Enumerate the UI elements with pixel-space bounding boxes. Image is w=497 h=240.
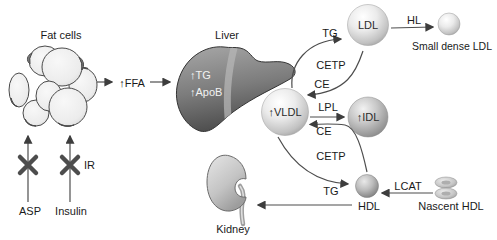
fat-cells-label: Fat cells	[41, 29, 82, 41]
liver-label: Liver	[215, 29, 239, 41]
hl-label: HL	[407, 14, 421, 26]
cetp-upper-label: CETP	[316, 59, 345, 71]
hdl-label: HDL	[358, 200, 380, 212]
liver-tg-label: ↑TG	[190, 69, 211, 81]
nascent-hdl-label: Nascent HDL	[418, 200, 483, 212]
ldl-label: LDL	[358, 19, 378, 31]
kidney-label: Kidney	[216, 223, 250, 235]
tg-lower-label: TG	[323, 185, 338, 197]
hdl-circle	[356, 175, 379, 198]
nascent-hdl-disc-core	[442, 181, 451, 185]
idl-label: ↑IDL	[357, 111, 380, 123]
ffa-label: ↑FFA	[119, 77, 145, 89]
small-dense-ldl-circle	[438, 13, 460, 35]
ce-upper-label: CE	[314, 78, 329, 90]
ce-mid-label: CE	[316, 125, 331, 137]
tg-upper-label: TG	[322, 27, 337, 39]
vldl-label: ↑VLDL	[268, 106, 301, 118]
lcat-label: LCAT	[394, 180, 422, 192]
ir-label: IR	[84, 159, 95, 171]
lipid-metabolism-diagram: Fat cells IR ASP Insulin ↑FFA ↑TG ↑ApoB …	[0, 0, 497, 240]
liver-apob-label: ↑ApoB	[190, 86, 222, 98]
nascent-hdl-disc-core	[442, 192, 451, 196]
asp-label: ASP	[19, 205, 41, 217]
lpl-label: LPL	[318, 101, 338, 113]
fat-cells-cluster	[9, 46, 97, 126]
kidney	[207, 155, 246, 224]
insulin-label: Insulin	[55, 205, 87, 217]
kidney-shape	[207, 155, 246, 211]
hl-arrow	[391, 27, 433, 28]
fat-cell	[49, 88, 87, 126]
diagram-canvas: Fat cells IR ASP Insulin ↑FFA ↑TG ↑ApoB …	[0, 0, 497, 240]
cetp-lower-label: CETP	[316, 150, 345, 162]
small-dense-ldl-label: Small dense LDL	[412, 40, 492, 52]
fat-cell	[42, 48, 82, 86]
nascent-hdl-shape	[435, 177, 457, 199]
